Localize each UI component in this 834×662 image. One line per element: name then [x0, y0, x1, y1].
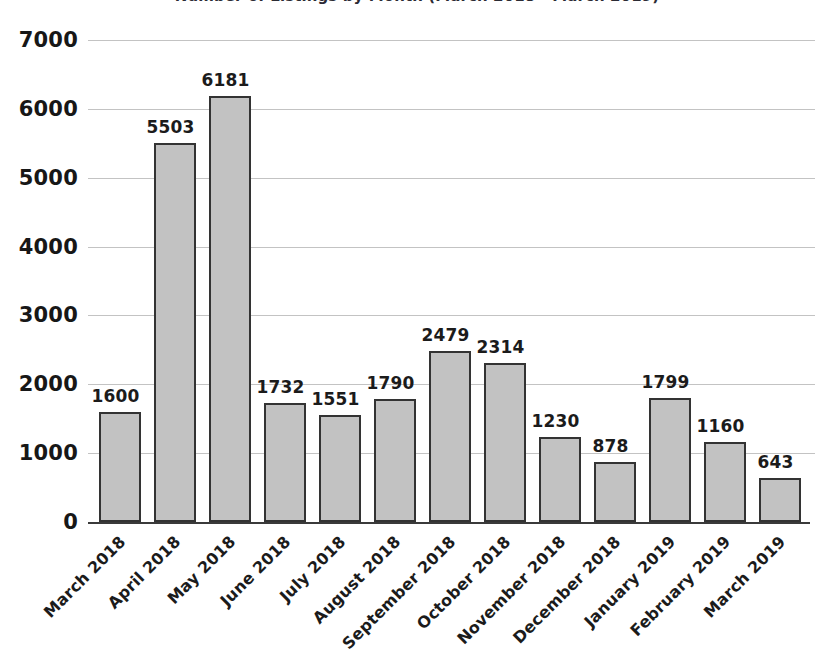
- bar[interactable]: [704, 442, 746, 522]
- bar[interactable]: [154, 143, 196, 522]
- bar-slot: 6181: [198, 40, 253, 522]
- bar-value-label: 1799: [638, 372, 693, 392]
- bar-value-label: 6181: [198, 70, 253, 90]
- y-axis-tick-label: 4000: [0, 235, 78, 259]
- y-axis-tick-label: 2000: [0, 372, 78, 396]
- bar[interactable]: [539, 437, 581, 522]
- bar[interactable]: [99, 412, 141, 522]
- bar-slot: 1799: [638, 40, 693, 522]
- bar-slot: 1790: [363, 40, 418, 522]
- bar-value-label: 1230: [528, 411, 583, 431]
- x-label-slot: March 2019: [748, 524, 803, 662]
- y-axis-tick-label: 7000: [0, 28, 78, 52]
- bar-value-label: 1732: [253, 377, 308, 397]
- y-axis-tick-label: 6000: [0, 97, 78, 121]
- y-axis-tick-label: 1000: [0, 441, 78, 465]
- bar[interactable]: [594, 462, 636, 522]
- bar-slot: 2314: [473, 40, 528, 522]
- bar-value-label: 878: [583, 436, 638, 456]
- bar-value-label: 1600: [88, 386, 143, 406]
- bar-value-label: 1160: [693, 416, 748, 436]
- bar[interactable]: [759, 478, 801, 522]
- bar-slot: 878: [583, 40, 638, 522]
- bar-slot: 643: [748, 40, 803, 522]
- bar-value-label: 2479: [418, 325, 473, 345]
- bar[interactable]: [374, 399, 416, 522]
- bar[interactable]: [264, 403, 306, 522]
- bar-slot: 5503: [143, 40, 198, 522]
- chart-title: Number of Listings by Month (March 2018 …: [175, 0, 659, 5]
- bar-slot: 1551: [308, 40, 363, 522]
- bar[interactable]: [319, 415, 361, 522]
- bar[interactable]: [429, 351, 471, 522]
- y-axis-tick-label: 5000: [0, 166, 78, 190]
- bar[interactable]: [209, 96, 251, 522]
- bar-value-label: 643: [748, 452, 803, 472]
- y-axis-tick-label: 3000: [0, 303, 78, 327]
- y-axis-tick-label: 0: [0, 510, 78, 534]
- bar-chart: Number of Listings by Month (March 2018 …: [0, 0, 834, 662]
- bar-value-label: 1790: [363, 373, 418, 393]
- bar-slot: 2479: [418, 40, 473, 522]
- bar-value-label: 2314: [473, 337, 528, 357]
- x-axis-tick-labels: March 2018April 2018May 2018June 2018Jul…: [88, 524, 815, 662]
- bar-slot: 1732: [253, 40, 308, 522]
- bar-value-label: 1551: [308, 389, 363, 409]
- bar-value-label: 5503: [143, 117, 198, 137]
- bars-container: 1600550361811732155117902479231412308781…: [88, 40, 815, 522]
- bar[interactable]: [484, 363, 526, 522]
- bar-slot: 1230: [528, 40, 583, 522]
- bar-slot: 1600: [88, 40, 143, 522]
- chart-title-cropped: Number of Listings by Month (March 2018 …: [0, 0, 834, 9]
- bar-slot: 1160: [693, 40, 748, 522]
- bar[interactable]: [649, 398, 691, 522]
